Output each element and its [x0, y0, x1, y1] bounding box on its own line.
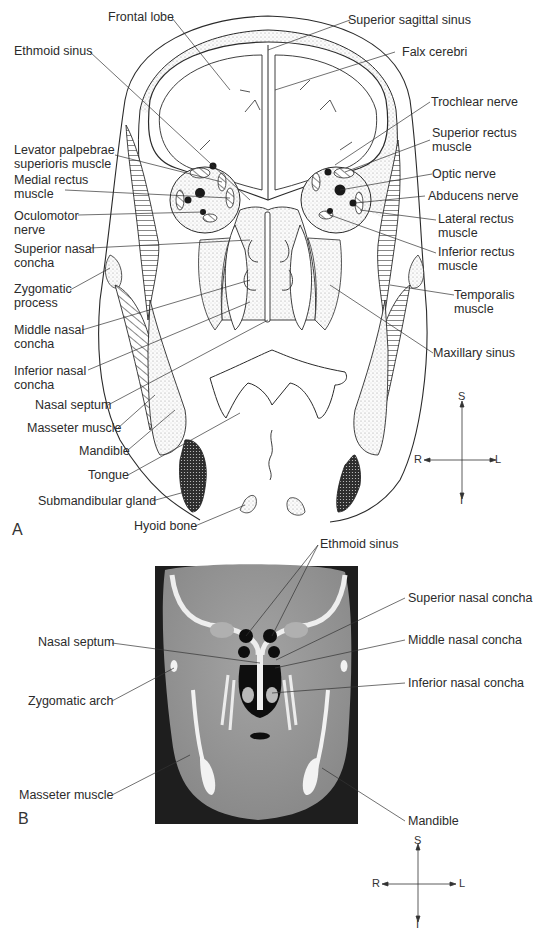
label-mandible: Mandible: [79, 444, 130, 458]
orientation-b-inferior: I: [416, 918, 419, 929]
label-b-zygomatic-arch: Zygomatic arch: [28, 694, 113, 708]
panel-letter-a: A: [12, 521, 23, 539]
label-masseter-muscle: Masseter muscle: [27, 421, 121, 435]
label-b-nasal-septum: Nasal septum: [38, 635, 114, 649]
label-b-middle-nasal-concha: Middle nasal concha: [408, 633, 522, 647]
label-b-ethmoid-sinus: Ethmoid sinus: [320, 537, 399, 551]
label-temporalis-muscle: Temporalis muscle: [454, 288, 514, 316]
label-optic-nerve: Optic nerve: [432, 167, 496, 181]
label-inferior-rectus: Inferior rectus muscle: [438, 245, 514, 273]
label-hyoid-bone: Hyoid bone: [134, 519, 197, 533]
label-zygomatic-process: Zygomatic process: [14, 282, 72, 310]
label-maxillary-sinus: Maxillary sinus: [433, 346, 515, 360]
label-b-masseter-muscle: Masseter muscle: [19, 788, 113, 802]
orientation-b-superior: S: [414, 834, 421, 846]
orientation-a-superior: S: [458, 390, 465, 402]
anatomy-figure: Frontal lobe Ethmoid sinus Levator palpe…: [0, 0, 536, 929]
label-superior-sagittal-sinus: Superior sagittal sinus: [348, 13, 471, 27]
orientation-b-left: L: [459, 877, 465, 889]
label-b-superior-nasal-concha: Superior nasal concha: [408, 591, 532, 605]
label-b-mandible: Mandible: [408, 814, 459, 828]
label-nasal-septum: Nasal septum: [35, 398, 111, 412]
label-lateral-rectus: Lateral rectus muscle: [438, 212, 514, 240]
label-medial-rectus: Medial rectus muscle: [14, 173, 88, 201]
panel-b-ct-scan: [155, 564, 358, 824]
label-levator-palpebrae: Levator palpebrae superioris muscle: [14, 143, 115, 171]
label-abducens-nerve: Abducens nerve: [428, 189, 518, 203]
label-trochlear-nerve: Trochlear nerve: [431, 95, 518, 109]
label-inferior-nasal-concha: Inferior nasal concha: [14, 364, 86, 392]
label-middle-nasal-concha: Middle nasal concha: [14, 323, 84, 351]
label-superior-rectus: Superior rectus muscle: [432, 126, 517, 154]
orientation-a-right: R: [414, 453, 422, 465]
label-oculomotor-nerve: Oculomotor nerve: [14, 209, 79, 237]
label-tongue: Tongue: [88, 468, 129, 482]
label-frontal-lobe: Frontal lobe: [108, 10, 174, 24]
label-superior-nasal-concha: Superior nasal concha: [14, 242, 95, 270]
orientation-a-inferior: I: [460, 494, 463, 506]
label-submandibular-gland: Submandibular gland: [38, 494, 156, 508]
orientation-a-left: L: [495, 453, 501, 465]
orientation-b-right: R: [372, 877, 380, 889]
label-falx-cerebri: Falx cerebri: [402, 45, 467, 59]
panel-letter-b: B: [18, 810, 29, 828]
label-b-inferior-nasal-concha: Inferior nasal concha: [408, 676, 524, 690]
label-ethmoid-sinus: Ethmoid sinus: [14, 44, 93, 58]
